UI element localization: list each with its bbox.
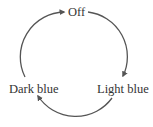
arrow-light-blue-to-dark-blue [38, 96, 112, 116]
arrow-dark-blue-to-off [20, 12, 64, 77]
cycle-arrows [0, 0, 153, 127]
node-label-dark-blue: Dark blue [9, 83, 59, 96]
node-label-off: Off [68, 6, 85, 19]
arrow-off-to-light-blue [88, 12, 127, 76]
node-label-light-blue: Light blue [97, 83, 149, 96]
state-cycle-diagram: Off Light blue Dark blue [0, 0, 153, 127]
